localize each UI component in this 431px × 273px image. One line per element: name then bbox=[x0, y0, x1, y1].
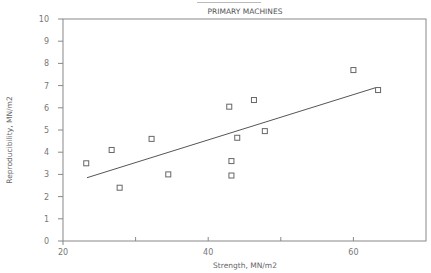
x-axis: 204060 bbox=[58, 237, 359, 257]
y-tick-label: 0 bbox=[44, 237, 49, 246]
square-marker bbox=[235, 135, 240, 140]
square-marker bbox=[262, 129, 267, 134]
scatter-chart: 012345678910 204060 PRIMARY MACHINES Str… bbox=[0, 0, 431, 273]
x-axis-label: Strength, MN/m2 bbox=[213, 261, 277, 270]
y-tick-label: 6 bbox=[44, 104, 49, 113]
y-axis: 012345678910 bbox=[39, 15, 63, 246]
plot-frame bbox=[63, 19, 426, 241]
chart-title: PRIMARY MACHINES bbox=[208, 7, 283, 16]
square-marker bbox=[376, 88, 381, 93]
y-tick-label: 10 bbox=[39, 15, 49, 24]
y-tick-label: 2 bbox=[44, 193, 49, 202]
square-marker bbox=[117, 185, 122, 190]
x-tick-label: 40 bbox=[203, 248, 213, 257]
x-tick-label: 60 bbox=[348, 248, 358, 257]
y-tick-label: 9 bbox=[44, 37, 49, 46]
square-marker bbox=[251, 98, 256, 103]
plot-border bbox=[63, 19, 426, 241]
square-marker bbox=[229, 159, 234, 164]
square-marker bbox=[109, 147, 114, 152]
square-marker bbox=[84, 161, 89, 166]
y-tick-label: 8 bbox=[44, 59, 49, 68]
y-tick-label: 4 bbox=[44, 148, 49, 157]
square-marker bbox=[149, 136, 154, 141]
regression-line bbox=[87, 88, 375, 178]
trend-line bbox=[87, 88, 375, 178]
y-tick-label: 5 bbox=[44, 126, 49, 135]
square-marker bbox=[351, 68, 356, 73]
data-points bbox=[84, 68, 381, 191]
y-tick-label: 3 bbox=[44, 170, 49, 179]
y-axis-label: Reproducibility, MN/m2 bbox=[5, 96, 14, 184]
y-tick-label: 7 bbox=[44, 82, 49, 91]
square-marker bbox=[166, 172, 171, 177]
y-tick-label: 1 bbox=[44, 215, 49, 224]
square-marker bbox=[227, 104, 232, 109]
x-tick-label: 20 bbox=[58, 248, 68, 257]
square-marker bbox=[229, 173, 234, 178]
